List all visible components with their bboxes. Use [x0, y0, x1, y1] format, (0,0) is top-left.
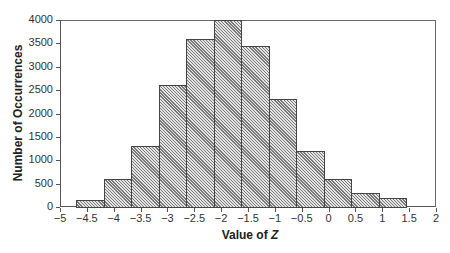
y-tick-mark [56, 43, 60, 44]
histogram-bar [76, 200, 105, 208]
y-tick-mark [56, 114, 60, 115]
histogram-bar [241, 46, 270, 208]
y-tick-mark [56, 137, 60, 138]
y-axis-title: Number of Occurrences [11, 33, 25, 193]
y-tick-mark [56, 67, 60, 68]
y-tick-label: 4000 [13, 13, 53, 25]
x-axis-title: Value of Z [180, 228, 320, 242]
histogram-bar [159, 85, 188, 208]
y-tick-mark [56, 90, 60, 91]
histogram-bar [269, 99, 298, 208]
histogram-bar [186, 39, 215, 208]
y-tick-mark [56, 160, 60, 161]
x-axis-title-prefix: Value of [222, 228, 271, 242]
histogram-bar [324, 179, 353, 208]
histogram-chart: 05001000150020002500300035004000 −5−4.5−… [0, 0, 450, 253]
histogram-bar [296, 151, 325, 208]
x-axis-title-variable: Z [271, 228, 278, 242]
histogram-bar [131, 146, 160, 208]
y-tick-mark [56, 184, 60, 185]
x-tick-label: 2 [416, 212, 450, 224]
histogram-bar [351, 193, 380, 208]
y-tick-label: 0 [13, 200, 53, 212]
histogram-bar [379, 198, 408, 208]
y-tick-mark [56, 20, 60, 21]
histogram-bar [104, 179, 133, 208]
histogram-bar [214, 20, 243, 208]
